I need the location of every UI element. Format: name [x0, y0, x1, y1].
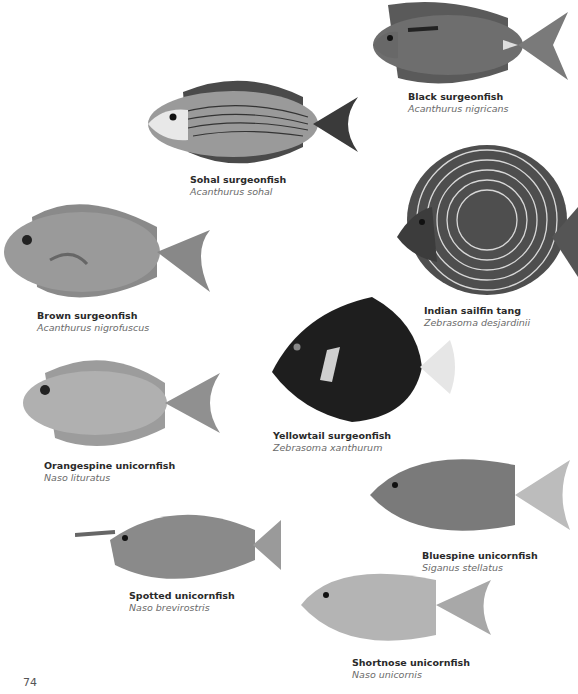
latin-name: Naso unicornis	[352, 669, 470, 681]
latin-name: Naso brevirostris	[129, 602, 235, 614]
label-orangespine-unicornfish: Orangespine unicornfish Naso lituratus	[44, 460, 175, 484]
label-spotted-unicornfish: Spotted unicornfish Naso brevirostris	[129, 590, 235, 614]
sohal-surgeonfish-illustration	[143, 72, 363, 172]
bluespine-unicornfish-illustration	[365, 440, 575, 545]
black-surgeonfish-illustration	[368, 0, 573, 88]
label-shortnose-unicornfish: Shortnose unicornfish Naso unicornis	[352, 657, 470, 681]
brown-surgeonfish-illustration	[2, 192, 214, 310]
indian-sailfin-tang-illustration	[392, 142, 578, 300]
page-number: 74	[23, 676, 37, 689]
shortnose-unicornfish-illustration	[296, 555, 496, 655]
latin-name: Naso lituratus	[44, 472, 175, 484]
common-name: Brown surgeonfish	[37, 310, 149, 322]
latin-name: Acanthurus nigricans	[408, 103, 508, 115]
common-name: Orangespine unicornfish	[44, 460, 175, 472]
orangespine-unicornfish-illustration	[15, 348, 225, 458]
latin-name: Acanthurus nigrofuscus	[37, 322, 149, 334]
common-name: Black surgeonfish	[408, 91, 508, 103]
common-name: Spotted unicornfish	[129, 590, 235, 602]
spotted-unicornfish-illustration	[75, 500, 285, 588]
common-name: Shortnose unicornfish	[352, 657, 470, 669]
label-black-surgeonfish: Black surgeonfish Acanthurus nigricans	[408, 91, 508, 115]
label-brown-surgeonfish: Brown surgeonfish Acanthurus nigrofuscus	[37, 310, 149, 334]
common-name: Sohal surgeonfish	[190, 174, 286, 186]
yellowtail-surgeonfish-illustration	[262, 292, 457, 427]
